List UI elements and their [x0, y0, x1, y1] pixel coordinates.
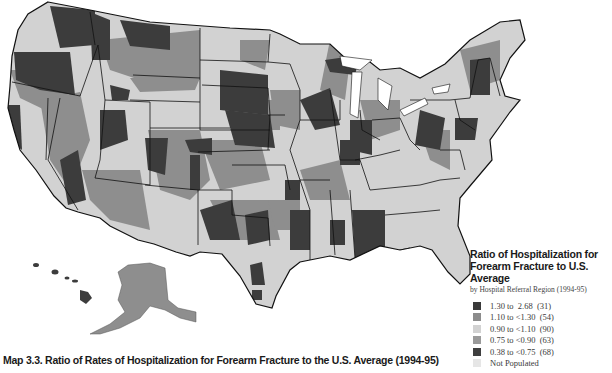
map-caption: Map 3.3. Ratio of Rates of Hospitalizati…: [3, 354, 439, 366]
legend-swatch: [473, 325, 481, 333]
legend-label: 0.75 to <0.90 (63): [490, 335, 554, 345]
legend-swatch: [473, 336, 481, 344]
legend-item: 0.90 to <1.10 (90): [468, 323, 612, 335]
legend-label: 0.38 to <0.75 (68): [490, 347, 554, 357]
alaska: [90, 263, 196, 334]
legend-swatch: [473, 302, 481, 310]
legend-swatch: [473, 313, 481, 321]
legend-swatch: [473, 359, 481, 367]
map-legend: Ratio of Hospitalization for Forearm Fra…: [468, 248, 612, 369]
legend-item: 1.10 to <1.30 (54): [468, 312, 612, 324]
legend-item: 0.75 to <0.90 (63): [468, 335, 612, 347]
legend-item: 1.30 to 2.68 (31): [468, 300, 612, 312]
legend-item: Not Populated: [468, 358, 612, 370]
legend-swatch: [473, 348, 481, 356]
legend-label: Not Populated: [490, 358, 539, 368]
legend-title-line1: Ratio of Hospitalization for: [470, 248, 612, 260]
legend-label: 1.30 to 2.68 (31): [490, 301, 551, 311]
legend-label: 0.90 to <1.10 (90): [490, 324, 554, 334]
legend-label: 1.10 to <1.30 (54): [490, 312, 554, 322]
legend-title-line2: Forearm Fracture to U.S. Average: [470, 260, 612, 284]
hawaii: [33, 263, 92, 304]
legend-subtitle: by Hospital Referral Region (1994-95): [470, 285, 612, 294]
legend-item: 0.38 to <0.75 (68): [468, 346, 612, 358]
